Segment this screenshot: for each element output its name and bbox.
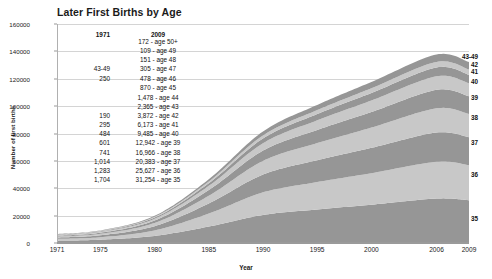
- y-tick-mark: [54, 133, 57, 134]
- x-tick-label: 2009: [462, 246, 477, 253]
- annotation-row: 9,485 - age 40: [137, 130, 178, 137]
- band-label-39: 39: [471, 93, 478, 100]
- band-label-41: 41: [471, 67, 478, 74]
- y-axis-label: Number of first births: [9, 77, 16, 197]
- annotation-row: 1,283: [94, 167, 110, 174]
- annotation-row: 478 - age 46: [140, 75, 176, 82]
- annotation-row: 43-49: [94, 65, 110, 72]
- annotation-row: 6,173 - age 41: [137, 121, 178, 128]
- x-tick-label: 1990: [256, 246, 271, 253]
- annotation-row: 305 - age 47: [140, 65, 176, 72]
- band-label-38: 38: [471, 113, 478, 120]
- annotation-header: 1971: [96, 31, 110, 38]
- annotation-row: 484: [99, 130, 110, 137]
- annotation-row: 1,704: [94, 176, 110, 183]
- x-tick-label: 1995: [310, 246, 325, 253]
- y-tick-mark: [54, 160, 57, 161]
- annotation-row: 295: [99, 121, 110, 128]
- annotation-row: 31,254 - age 35: [136, 176, 181, 183]
- annotation-row: 25,627 - age 36: [136, 167, 181, 174]
- y-tick-mark: [54, 78, 57, 79]
- y-tick-label: 140000: [9, 48, 30, 55]
- annotation-row: 1,478 - age 44: [137, 94, 178, 101]
- y-tick-mark: [54, 24, 57, 25]
- y-tick-label: 20000: [13, 212, 30, 219]
- annotation-row: 172 - age 50+: [138, 38, 178, 45]
- annotation-row: 16,966 - age 38: [136, 149, 181, 156]
- x-tick-label: 2000: [364, 246, 379, 253]
- annotation-row: 109 - age 49: [140, 47, 176, 54]
- y-tick-label: 160000: [9, 21, 30, 28]
- annotation-row: 20,383 - age 37: [136, 158, 181, 165]
- x-tick-label: 2006: [429, 246, 444, 253]
- x-axis-line: [57, 242, 469, 243]
- annotation-row: 741: [99, 149, 110, 156]
- band-label-40: 40: [471, 78, 478, 85]
- annotation-row: 250: [99, 75, 110, 82]
- x-tick-label: 1985: [201, 246, 216, 253]
- y-tick-mark: [54, 243, 57, 244]
- annotation-row: 3,872 - age 42: [137, 112, 178, 119]
- annotation-row: 1,014: [94, 158, 110, 165]
- chart-title: Later First Births by Age: [57, 6, 182, 18]
- x-tick-label: 1971: [50, 246, 65, 253]
- y-tick-label: 40000: [13, 185, 30, 192]
- y-tick-label: 60000: [13, 157, 30, 164]
- annotation-row: 2,365 - age 43: [137, 103, 178, 110]
- annotation-row: 870 - age 45: [140, 84, 176, 91]
- y-tick-label: 100000: [9, 103, 30, 110]
- band-label-36: 36: [471, 171, 478, 178]
- band-label-43-49: 43-49: [462, 53, 478, 60]
- chart-root: Later First Births by Age Number of firs…: [0, 0, 492, 279]
- stacked-area-series: [57, 24, 469, 243]
- y-tick-label: 0: [27, 240, 30, 247]
- gridline: [57, 243, 469, 244]
- x-tick-label: 1980: [147, 246, 162, 253]
- x-tick-label: 1975: [93, 246, 108, 253]
- y-tick-mark: [54, 51, 57, 52]
- y-tick-mark: [54, 106, 57, 107]
- y-tick-label: 120000: [9, 75, 30, 82]
- band-label-35: 35: [471, 215, 478, 222]
- y-tick-label: 80000: [13, 130, 30, 137]
- annotation-row: 601: [99, 139, 110, 146]
- annotation-row: 190: [99, 112, 110, 119]
- y-tick-mark: [54, 188, 57, 189]
- annotation-row: 151 - age 48: [140, 56, 176, 63]
- x-axis-label: Year: [0, 264, 492, 271]
- y-axis-line: [57, 24, 58, 243]
- annotation-row: 12,942 - age 39: [136, 139, 181, 146]
- band-label-37: 37: [471, 139, 478, 146]
- plot-area: [57, 24, 469, 243]
- y-tick-mark: [54, 215, 57, 216]
